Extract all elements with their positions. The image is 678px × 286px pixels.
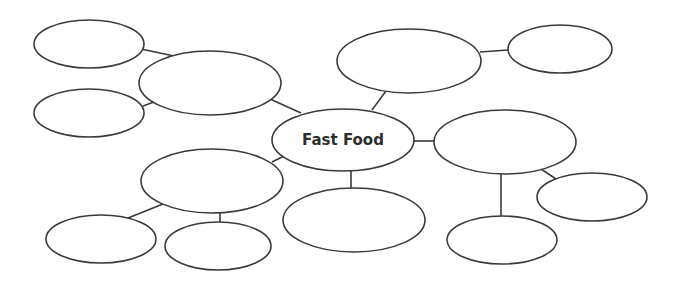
node-ellipse[interactable] <box>537 173 647 221</box>
connector-lower-left-branch-to-bottom-left-leaf <box>128 204 163 218</box>
connector-top-center-branch-to-top-right-leaf <box>480 50 508 52</box>
node-ellipse[interactable] <box>165 222 271 270</box>
node-bottom-right-leaf[interactable] <box>537 173 647 221</box>
connector-top-center-branch-to-center <box>372 91 386 110</box>
node-ellipse[interactable] <box>337 29 481 93</box>
node-upper-left-branch[interactable] <box>139 51 281 115</box>
central-node-label: Fast Food <box>302 131 384 149</box>
node-bottom-center-branch[interactable] <box>283 188 425 252</box>
node-bottom-right-lower-leaf[interactable] <box>447 216 557 264</box>
node-mid-left-leaf[interactable] <box>34 89 144 137</box>
node-right-branch[interactable] <box>434 110 576 174</box>
fast-food-mind-map: Fast Food <box>0 0 678 286</box>
connector-upper-left-branch-to-center <box>270 99 301 113</box>
node-top-center-branch[interactable] <box>337 29 481 93</box>
node-ellipse[interactable] <box>34 20 144 68</box>
node-lower-left-branch[interactable] <box>141 149 283 213</box>
node-ellipse[interactable] <box>283 188 425 252</box>
connector-top-left-leaf-to-upper-left-branch <box>141 49 174 56</box>
node-top-left-leaf[interactable] <box>34 20 144 68</box>
node-ellipse[interactable] <box>508 25 612 73</box>
node-ellipse[interactable] <box>141 149 283 213</box>
node-ellipse[interactable] <box>434 110 576 174</box>
connector-right-branch-to-bottom-right-leaf <box>541 169 556 179</box>
node-ellipse[interactable] <box>46 215 156 263</box>
node-bottom-left-mid-leaf[interactable] <box>165 222 271 270</box>
node-ellipse[interactable] <box>139 51 281 115</box>
node-ellipse[interactable] <box>34 89 144 137</box>
central-node: Fast Food <box>272 109 414 171</box>
node-ellipse[interactable] <box>447 216 557 264</box>
node-top-right-leaf[interactable] <box>508 25 612 73</box>
node-bottom-left-leaf[interactable] <box>46 215 156 263</box>
